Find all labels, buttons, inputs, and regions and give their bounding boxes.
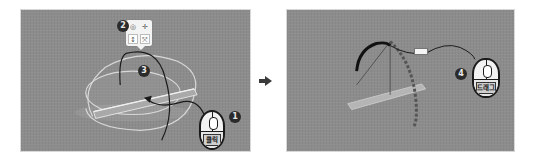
scale-vertical-icon[interactable]: ↕ <box>128 34 138 44</box>
rotate-tool-icon[interactable]: ◎ <box>128 22 138 32</box>
mouse-wheel <box>209 117 218 130</box>
step-badge-1: 1 <box>229 111 241 123</box>
mouse-drag-icon: 드래그 <box>472 58 500 98</box>
mouse-click-icon: 클릭 <box>199 110 225 150</box>
viewport-step-click: ◎ ✛ ↕ ⤧ 2 3 1 클릭 <box>20 9 251 152</box>
scale-all-icon[interactable]: ⤧ <box>140 34 150 44</box>
next-step-arrow-icon <box>259 76 272 86</box>
step-badge-3: 3 <box>138 65 150 77</box>
viewport-step-drag: 4 드래그 <box>286 9 515 152</box>
plank-object <box>348 84 426 110</box>
move-tool-icon[interactable]: ✛ <box>140 22 150 32</box>
mouse-wheel <box>483 65 492 78</box>
rotation-trail <box>390 42 416 127</box>
mouse-action-label: 드래그 <box>476 82 496 94</box>
mouse-action-label: 클릭 <box>203 134 221 146</box>
step-badge-4: 4 <box>455 68 467 80</box>
angle-value-tag <box>414 48 428 55</box>
transform-toolbar: ◎ ✛ ↕ ⤧ <box>126 20 152 46</box>
step-badge-2: 2 <box>117 20 129 32</box>
